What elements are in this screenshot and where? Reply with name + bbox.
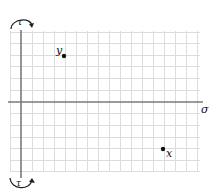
tau-bottom-label: τ [16, 179, 21, 188]
stress-plane-diagram: τ τ σ y x [0, 0, 216, 196]
point-x-label: x [166, 148, 172, 159]
point-y-marker [62, 54, 66, 58]
bottom-shear-arrow-icon [10, 178, 35, 188]
sigma-axis-label: σ [201, 104, 209, 115]
point-x-marker [161, 147, 165, 151]
grid-canvas [0, 0, 216, 196]
axes [8, 30, 203, 178]
tau-top-label: τ [17, 17, 23, 27]
point-y-label: y [56, 45, 62, 56]
